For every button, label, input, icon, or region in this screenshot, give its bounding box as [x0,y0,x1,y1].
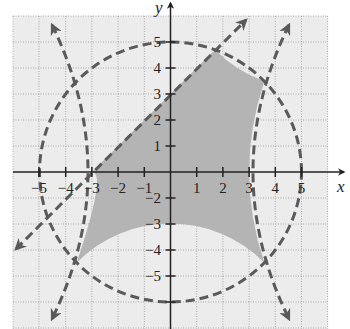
x-tick-label: 4 [272,180,280,196]
y-tick-label: 2 [154,112,162,128]
x-tick-label: 5 [298,180,306,196]
y-tick-label: −3 [145,216,161,232]
y-tick-label: −2 [145,190,161,206]
x-tick-label: −5 [31,180,47,196]
y-tick-label: 4 [154,60,162,76]
y-tick-label: 5 [154,34,162,50]
y-tick-label: −5 [145,268,161,284]
y-axis-label: y [153,0,163,17]
x-tick-label: 3 [245,180,253,196]
x-tick-label: −3 [84,180,100,196]
y-tick-label: 3 [154,86,162,102]
x-tick-label: 2 [219,180,227,196]
y-tick-label: −4 [145,242,161,258]
x-tick-label: 1 [193,180,201,196]
x-tick-label: −2 [110,180,126,196]
x-axis-label: x [336,177,345,196]
y-tick-label: 1 [154,138,162,154]
graph: −5 −4 −3 −2 −1 1 2 3 4 5 5 4 3 2 1 −2 −3… [0,0,350,329]
x-tick-label: −4 [58,180,74,196]
